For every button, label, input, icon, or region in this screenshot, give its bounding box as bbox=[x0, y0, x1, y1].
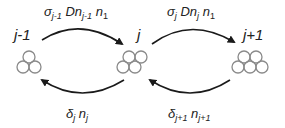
rate-label-detach-j: δj nj bbox=[66, 106, 89, 123]
node-label-j-minus-1: j-1 bbox=[12, 26, 31, 43]
forward-arrow-j-minus-1-to-j bbox=[42, 29, 122, 44]
cluster-j-minus-1 bbox=[17, 51, 41, 73]
cluster-j-plus-1 bbox=[232, 51, 268, 73]
rate-label-detach-j-plus-1: δj+1 nj+1 bbox=[168, 106, 211, 123]
cluster-diagram: j-1 j j+1 σj-1 Dnj-1 n1 σj Dnj n1 δj nj bbox=[0, 0, 285, 128]
node-label-j-plus-1: j+1 bbox=[241, 26, 263, 43]
backward-arrow-j-plus-1-to-j bbox=[150, 80, 230, 93]
forward-arrow-j-to-j-plus-1 bbox=[152, 29, 234, 44]
rate-label-attach-j-minus-1: σj-1 Dnj-1 n1 bbox=[44, 4, 108, 21]
backward-arrow-j-to-j-minus-1 bbox=[42, 80, 124, 93]
rate-label-attach-j: σj Dnj n1 bbox=[167, 4, 215, 21]
node-label-j: j bbox=[135, 26, 141, 43]
cluster-j bbox=[117, 51, 147, 73]
